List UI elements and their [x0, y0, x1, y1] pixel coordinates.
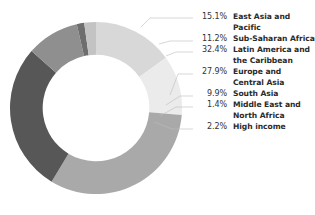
- donut-chart-graphic: [8, 10, 184, 206]
- legend-category: High income: [233, 121, 286, 132]
- legend-percent: 27.9%: [196, 66, 227, 77]
- legend: 15.1% East Asia and Pacific 11.2% Sub-Sa…: [196, 11, 315, 132]
- legend-item-high-income[interactable]: 2.2% High income: [196, 121, 315, 132]
- donut-slice-latin-america-and-the-caribbean[interactable]: [52, 112, 182, 194]
- legend-percent: 15.1%: [196, 11, 227, 22]
- legend-item-middle-east-and-north-africa[interactable]: 1.4% Middle East and North Africa: [196, 99, 315, 121]
- legend-percent: 2.2%: [196, 121, 227, 132]
- legend-category: Sub-Saharan Africa: [233, 33, 315, 44]
- legend-category: Latin America and the Caribbean: [233, 44, 310, 66]
- legend-item-latin-america-and-the-caribbean[interactable]: 32.4% Latin America and the Caribbean: [196, 44, 315, 66]
- donut-chart-figure: 15.1% East Asia and Pacific 11.2% Sub-Sa…: [0, 0, 315, 215]
- legend-percent: 1.4%: [196, 99, 227, 110]
- legend-category: Europe and Central Asia: [233, 66, 284, 88]
- legend-category: Middle East and North Africa: [233, 99, 301, 121]
- legend-item-south-asia[interactable]: 9.9% South Asia: [196, 88, 315, 99]
- donut-slice-group: [10, 22, 182, 194]
- legend-percent: 11.2%: [196, 33, 227, 44]
- legend-item-sub-saharan-africa[interactable]: 11.2% Sub-Saharan Africa: [196, 33, 315, 44]
- legend-percent: 32.4%: [196, 44, 227, 55]
- donut-svg: [8, 10, 184, 206]
- legend-percent: 9.9%: [196, 88, 227, 99]
- legend-item-europe-and-central-asia[interactable]: 27.9% Europe and Central Asia: [196, 66, 315, 88]
- legend-category: East Asia and Pacific: [233, 11, 290, 33]
- donut-slice-europe-and-central-asia[interactable]: [10, 51, 68, 182]
- legend-category: South Asia: [233, 88, 278, 99]
- legend-item-east-asia-and-pacific[interactable]: 15.1% East Asia and Pacific: [196, 11, 315, 33]
